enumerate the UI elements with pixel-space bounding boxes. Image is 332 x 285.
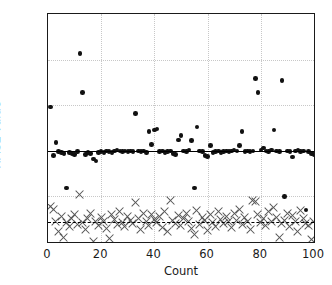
data-point-cross [165,195,176,206]
x-axis-tick-label: 60 [199,247,214,261]
x-axis-label: Count [164,264,198,278]
x-axis-tick-label: 100 [302,247,324,261]
plot-area [47,13,315,243]
data-point-cross [250,196,261,207]
data-point-circle [54,140,59,145]
x-axis-tick [208,242,209,243]
data-point-circle [179,133,184,138]
gridline-horizontal [48,105,314,106]
data-point-circle [189,138,194,143]
data-point-circle [51,153,56,158]
y-axis-tick [47,105,48,106]
data-point-cross [80,224,91,235]
data-point-circle [256,90,261,95]
data-point-cross [58,232,69,243]
data-point-cross [274,232,285,243]
data-point-circle [133,111,138,116]
gridline-vertical [261,14,262,242]
data-point-circle [208,143,213,148]
data-point-circle [282,194,287,199]
data-point-cross [74,189,85,200]
data-point-cross [130,197,141,208]
gridline-horizontal [48,196,314,197]
data-point-circle [78,51,83,56]
data-point-circle [195,125,200,130]
rmse-scatter-figure: RMSE value Count 0.00.51.01.52.02.502040… [0,0,332,285]
y-axis-tick [47,196,48,197]
data-point-circle [205,154,210,159]
data-point-cross [189,229,200,240]
data-point-circle [176,138,181,143]
y-axis-tick [47,60,48,61]
data-point-cross [245,224,256,235]
y-axis-tick [47,14,48,15]
x-axis-tick [154,242,155,243]
gridline-vertical [101,14,102,242]
data-point-circle [94,159,99,164]
data-point-circle [80,90,85,95]
data-point-circle [312,152,315,157]
data-point-circle [62,151,67,156]
x-axis-tick-label: 80 [252,247,267,261]
data-point-circle [64,186,69,191]
y-axis-tick [47,151,48,152]
reference-line-mean-rmse-circles [48,151,314,152]
data-point-circle [192,186,197,191]
data-point-circle [48,105,53,110]
x-axis-tick [48,242,49,243]
reference-line-mean-rmse-crosses [48,222,314,223]
gridline-vertical [208,14,209,242]
data-point-circle [173,152,178,157]
data-point-circle [237,143,242,148]
data-point-circle [280,78,285,83]
data-point-cross [88,236,99,243]
y-axis-label: RMSE value [0,101,3,169]
data-point-circle [155,127,160,132]
x-axis-tick [261,242,262,243]
x-axis-tick [314,242,315,243]
data-point-circle [290,155,295,160]
data-point-circle [272,128,277,133]
x-axis-tick [101,242,102,243]
data-point-circle [240,129,245,134]
y-axis-tick [47,242,48,243]
data-point-circle [147,129,152,134]
x-axis-tick-label: 20 [93,247,108,261]
gridline-horizontal [48,60,314,61]
data-point-circle [253,76,258,81]
x-axis-tick-label: 0 [43,247,50,261]
x-axis-tick-label: 40 [146,247,161,261]
data-point-cross [104,233,115,243]
data-point-circle [149,142,154,147]
data-point-circle [88,151,93,156]
